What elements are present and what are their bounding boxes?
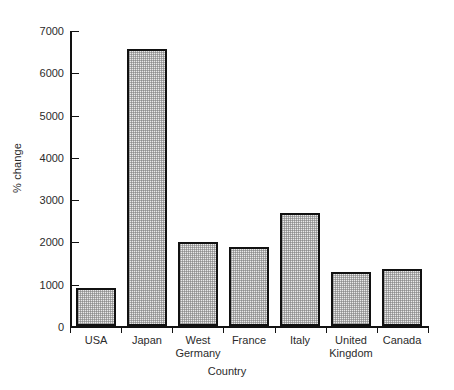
bar <box>382 269 422 326</box>
x-category-label: Canada <box>360 334 444 347</box>
bar-chart-figure: % change 01000200030004000500060007000 U… <box>0 0 454 390</box>
y-tick-label: 1000 <box>40 279 64 291</box>
bar <box>331 272 371 326</box>
x-tick-mark <box>428 326 429 333</box>
bar <box>229 247 269 326</box>
bar <box>76 288 116 326</box>
y-tick-mark <box>72 158 79 159</box>
y-tick-label: 7000 <box>40 25 64 37</box>
x-tick-mark <box>326 326 327 333</box>
y-tick-mark <box>72 200 79 201</box>
y-tick-mark <box>72 285 79 286</box>
x-tick-mark <box>121 326 122 333</box>
bar <box>127 49 167 326</box>
x-axis-line <box>70 326 428 328</box>
y-tick-mark <box>72 116 79 117</box>
bar <box>280 213 320 326</box>
y-axis-title: % change <box>11 123 23 213</box>
x-tick-mark <box>223 326 224 333</box>
plot-area: 01000200030004000500060007000 <box>70 31 428 327</box>
y-axis-line <box>70 31 72 327</box>
x-tick-mark <box>377 326 378 333</box>
x-tick-mark <box>275 326 276 333</box>
x-axis-title: Country <box>0 365 454 377</box>
y-tick-label: 5000 <box>40 110 64 122</box>
y-tick-label: 2000 <box>40 236 64 248</box>
y-tick-mark <box>72 327 79 328</box>
x-tick-mark <box>172 326 173 333</box>
y-tick-label: 6000 <box>40 67 64 79</box>
bar <box>178 242 218 326</box>
x-tick-mark <box>70 326 71 333</box>
y-tick-label: 4000 <box>40 152 64 164</box>
y-tick-mark <box>72 242 79 243</box>
y-tick-mark <box>72 31 79 32</box>
y-tick-label: 3000 <box>40 194 64 206</box>
y-tick-label: 0 <box>58 321 64 333</box>
y-tick-mark <box>72 73 79 74</box>
